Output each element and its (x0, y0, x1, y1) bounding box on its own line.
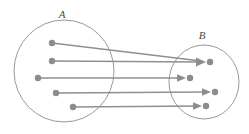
arrow-head-b4 (193, 102, 202, 110)
mapping-line-a5-b4 (73, 106, 197, 107)
set-mapping-diagram: A B (0, 0, 249, 134)
set-a-label: A (58, 8, 66, 20)
arrow-head-b2 (177, 74, 186, 82)
set-b-element-dot (187, 75, 193, 81)
set-a-element-dot (70, 104, 76, 110)
set-a-element-dot (49, 40, 55, 46)
set-a-element-dot (53, 90, 59, 96)
diagram-canvas: A B (0, 0, 249, 134)
set-b-element-dot (207, 59, 213, 65)
mapping-line-a1-b1 (52, 43, 201, 61)
mapping-line-a4-b3 (56, 92, 206, 93)
set-b-element-dot (203, 103, 209, 109)
set-a-element-dot (49, 58, 55, 64)
set-a-element-dot (35, 75, 41, 81)
mapping-line-a2-b1 (52, 61, 201, 62)
set-b-label: B (199, 29, 206, 41)
set-b-element-dot (212, 89, 218, 95)
arrow-head-b3 (202, 88, 211, 96)
arrow-head-b1 (196, 57, 206, 66)
